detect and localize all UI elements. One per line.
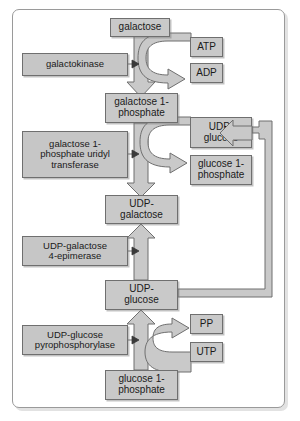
metabolite-udpgal-line2: galactose [120, 210, 163, 221]
enzyme-transferase-line3: transferase [25, 160, 125, 170]
enzyme-udp-glucose-pyrophosphorylase[interactable]: UDP-glucose pyrophosphorylase [22, 325, 128, 355]
metabolite-galactose-label: galactose [113, 22, 167, 33]
metabolite-udp-galactose[interactable]: UDP- galactose [105, 195, 178, 224]
metabolite-glc1p-bottom-line2: phosphate [118, 385, 165, 396]
metabolite-udpglc-mid-text: UDP- glucose [124, 284, 158, 306]
metabolite-udp-glucose-right[interactable]: UDP- glucose [190, 117, 252, 148]
metabolite-adp[interactable]: ADP [190, 63, 223, 83]
metabolite-gal1p-line2: phosphate [114, 108, 168, 119]
metabolite-glucose-1-phosphate-bottom[interactable]: glucose 1- phosphate [105, 370, 178, 400]
enzyme-galactose-1-phosphate-uridyl-transferase[interactable]: galactose 1- phosphate uridyl transferas… [22, 131, 128, 178]
metabolite-pp[interactable]: PP [190, 314, 223, 334]
metabolite-adp-label: ADP [193, 68, 220, 79]
metabolite-galactose[interactable]: galactose [110, 18, 170, 37]
metabolite-glc1p-right-text: glucose 1- phosphate [198, 159, 245, 181]
diagram-canvas: .blk { fill:#c9c9c9; stroke:#6f6f6f; str… [0, 0, 300, 421]
metabolite-glc1p-bottom-text: glucose 1- phosphate [118, 374, 165, 396]
metabolite-gal1p-text: galactose 1- phosphate [114, 97, 168, 119]
metabolite-glucose-1-phosphate-right[interactable]: glucose 1- phosphate [190, 155, 252, 185]
enzyme-galactokinase-label: galactokinase [25, 59, 125, 69]
metabolite-udpgal-text: UDP- galactose [120, 199, 163, 221]
enzyme-udp-galactose-4-epimerase[interactable]: UDP-galactose 4-epimerase [22, 236, 128, 266]
metabolite-udpglc-right-line1: UDP- [204, 122, 238, 133]
metabolite-udp-glucose-mid[interactable]: UDP- glucose [105, 280, 178, 310]
metabolite-utp-label: UTP [193, 347, 220, 358]
metabolite-glc1p-right-line2: phosphate [198, 170, 245, 181]
metabolite-atp[interactable]: ATP [190, 37, 223, 57]
metabolite-udpglc-right-text: UDP- glucose [204, 122, 238, 144]
metabolite-udpglc-right-line2: glucose [204, 133, 238, 144]
enzyme-epimerase-line2: 4-epimerase [25, 251, 125, 261]
enzyme-pyrophosphorylase-line2: pyrophosphorylase [25, 340, 125, 350]
enzyme-galactokinase[interactable]: galactokinase [22, 53, 128, 76]
metabolite-udpgal-line1: UDP- [120, 199, 163, 210]
metabolite-galactose-1-phosphate[interactable]: galactose 1- phosphate [105, 93, 178, 123]
metabolite-atp-label: ATP [193, 42, 220, 53]
metabolite-udpglc-mid-line2: glucose [124, 295, 158, 306]
metabolite-pp-label: PP [193, 319, 220, 330]
metabolite-utp[interactable]: UTP [190, 342, 223, 362]
edge-utp-to-pp-curve [145, 318, 191, 372]
edge-udpglcmid-to-udpgal [127, 224, 155, 280]
